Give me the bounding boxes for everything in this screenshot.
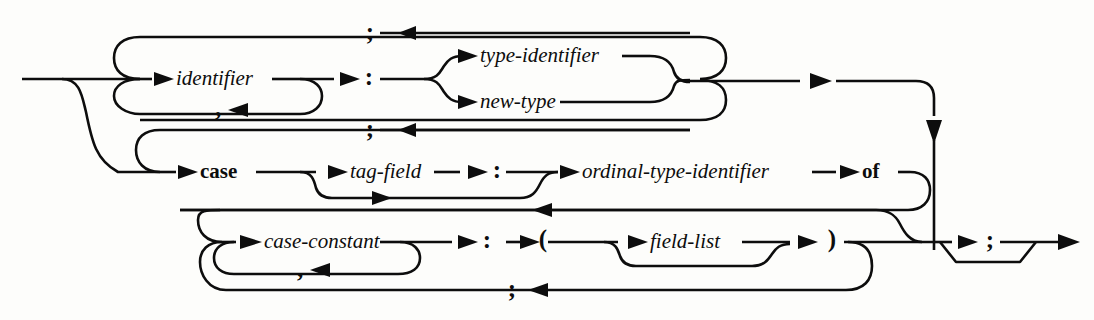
label-type-identifier: type-identifier	[480, 43, 600, 67]
arrow-bottom-return	[528, 283, 548, 297]
arrow-case-keyword	[178, 165, 198, 179]
arrow-ordinal-type	[560, 165, 580, 179]
variant-body-group	[198, 210, 934, 297]
arrow-to-colon	[340, 72, 360, 86]
punct-lparen: (	[539, 225, 547, 253]
entry-track	[22, 79, 160, 172]
arrow-lparen	[520, 235, 540, 249]
label-new-type: new-type	[480, 89, 556, 113]
label-ordinal-type-identifier: ordinal-type-identifier	[582, 159, 770, 183]
arrow-tag-field-bypass	[372, 191, 392, 205]
arrow-new-type	[458, 95, 478, 109]
punct-rparen: )	[828, 225, 836, 253]
arrow-tag-colon	[468, 165, 488, 179]
railroad-diagram-svg: identifier type-identifier new-type case…	[0, 0, 1094, 320]
punct-semicolon-bottom-return: ;	[508, 275, 516, 302]
label-of-keyword: of	[862, 159, 881, 183]
arrow-case-constant-colon	[458, 235, 478, 249]
punct-semicolon-case-return: ;	[366, 115, 374, 142]
syntax-diagram-canvas: identifier type-identifier new-type case…	[0, 0, 1094, 320]
arrow-tag-field	[328, 165, 348, 179]
arrow-diagram-exit	[1058, 234, 1080, 250]
arrow-type-identifier	[458, 49, 478, 63]
exit-track	[934, 234, 1080, 262]
arrow-exit-semicolon	[958, 235, 978, 249]
punct-semicolon-top: ;	[366, 18, 374, 45]
label-case-constant: case-constant	[264, 229, 381, 253]
punct-colon-tag: :	[493, 156, 501, 183]
arrow-case-constant	[240, 235, 262, 249]
punct-comma-case-constant: ,	[297, 255, 303, 282]
arrow-field-list	[628, 235, 648, 249]
label-identifier: identifier	[176, 66, 254, 90]
arrow-of-keyword	[840, 165, 860, 179]
punct-colon-case-constant: :	[483, 226, 491, 253]
label-case-keyword: case	[200, 159, 237, 183]
arrow-identifier	[154, 72, 174, 86]
arrow-rparen	[798, 235, 818, 249]
variant-selector-group	[136, 123, 930, 217]
punct-semicolon-exit: ;	[986, 226, 994, 253]
label-tag-field: tag-field	[350, 159, 422, 183]
label-field-list: field-list	[650, 229, 721, 253]
arrow-case-return	[398, 123, 416, 137]
punct-colon-fixed: :	[365, 63, 373, 90]
punct-comma-identifier: ,	[215, 94, 221, 121]
arrow-fixed-part-exit	[810, 73, 832, 89]
